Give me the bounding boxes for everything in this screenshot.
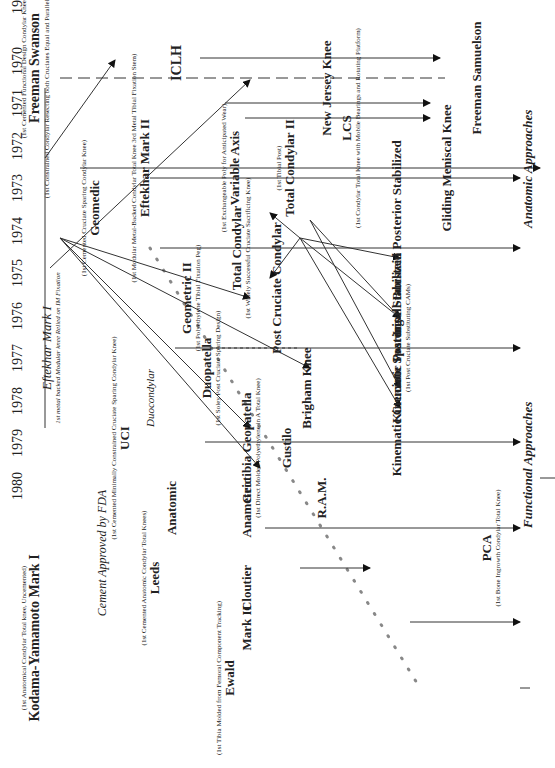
design-gliding-meniscal-knee: Gliding Meniscal Knee (440, 104, 454, 231)
design-brigham-knee: Brigham Knee (300, 347, 314, 428)
design-gustilo: Gustilo (280, 428, 294, 468)
year-1978: 1978 (10, 387, 26, 415)
design-freeman-swanson: (1st Cemented Functional Design Condylar… (20, 0, 51, 198)
design-total-condylar-2: (1st Tibial Post) Total Condylar II (275, 119, 297, 217)
design-post-cruciate-condylar: Post Cruciate Condylar (270, 222, 284, 353)
design-eftekhar-mark2: (1st Modular Metal-Backed Condylar Total… (130, 54, 152, 283)
design-ram: R.A.M. (315, 478, 329, 519)
design-duopatella: Duopatella (1st Soley Post Cruciate Spar… (200, 311, 222, 426)
design-geometric-2: Geometric II (1st Polyethylene Tibial Fi… (180, 245, 202, 352)
design-kodama: (1st Anatomical Condylar Total knee, Unc… (20, 554, 43, 721)
design-uci: (1st Cemented Minimally Constrained Cruc… (110, 336, 132, 539)
design-total-condylar: Total Condylar (1st Widely Successful Cr… (230, 178, 252, 319)
design-mark-2: Mark II (240, 605, 254, 650)
design-geomedic: (1st Cemented Cruciate Sparing Condylar … (80, 140, 102, 276)
design-lcs: LCS (1st Condylar Total Knee with Mobile… (340, 28, 362, 228)
design-ewald: (1st Tibia Molded from Femoral Component… (215, 601, 237, 755)
design-iclh: ICLH (170, 45, 185, 81)
year-1979: 1979 (10, 429, 26, 457)
design-pca: PCA (1st Bone Ingrowth Condylar Total Kn… (480, 490, 502, 607)
anatomic-approaches-label: Anatomic Approaches (520, 110, 536, 228)
functional-approaches-label: Functional Approaches (520, 402, 536, 528)
design-freeman-samuelson: Freeman Samuelson (470, 22, 484, 135)
design-duocondylar: Duocondylar (145, 369, 157, 427)
design-leeds: (1st Cemented Anatomic Condylar Total Kn… (140, 511, 162, 646)
year-1977: 1977 (10, 344, 26, 372)
design-insall-burstein-ps: Insall-Burstein Posterior Stabilized (390, 140, 404, 335)
year-1974: 1974 (10, 217, 26, 245)
design-new-jersey-knee: New Jersey Knee (320, 40, 334, 135)
design-cloutier: Cloutier (240, 565, 254, 611)
design-eftekhar-mark1: Eftekhar Mark I 1st metal backed Modular… (40, 272, 62, 424)
year-1975: 1975 (10, 259, 26, 287)
design-anametric: Anametric (240, 478, 254, 537)
design-anatomic: Anatomic (165, 481, 179, 535)
year-1980: 1980 (10, 472, 26, 500)
cement-fda-annotation: Cement Approved by FDA (96, 490, 109, 616)
year-1976: 1976 (10, 302, 26, 330)
knee-timeline-diagram: 1970 1970 1971 1972 1973 1974 1975 1976 … (0, 0, 555, 768)
